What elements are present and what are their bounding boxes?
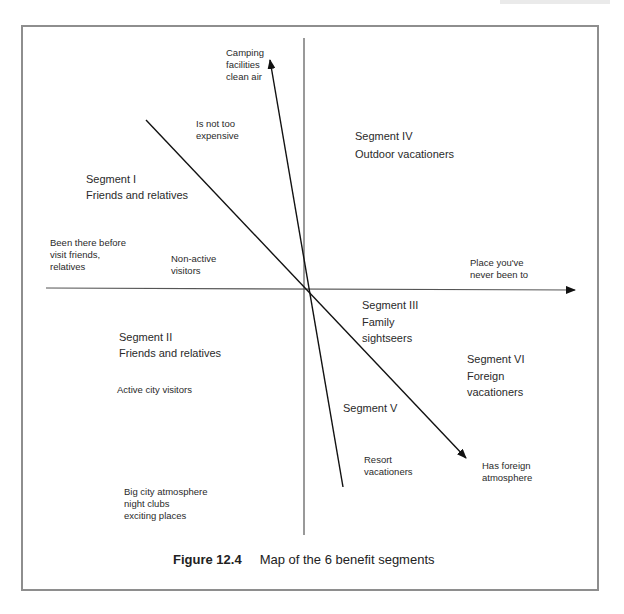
figure-title: Map of the 6 benefit segments (260, 552, 435, 567)
segment-v-title: Segment V (343, 400, 397, 416)
segment-iii-desc: Family sightseers (362, 314, 412, 346)
figure-number: Figure 12.4 (173, 552, 242, 567)
segment-i-desc: Friends and relatives (86, 187, 188, 203)
horizontal-axis (46, 288, 575, 290)
label-big-city: Big city atmosphere night clubs exciting… (124, 486, 207, 522)
segment-i-title: Segment I (86, 171, 136, 187)
label-foreign-atmosphere: Has foreign atmosphere (482, 460, 532, 484)
segment-vi-desc: Foreign vacationers (467, 368, 523, 400)
label-camping: Camping facilities clean air (226, 47, 264, 83)
camping-vector (270, 60, 343, 487)
label-non-active: Non-active visitors (171, 253, 216, 277)
label-never-been: Place you've never been to (470, 257, 528, 281)
label-active-city: Active city visitors (117, 384, 192, 396)
label-resort: Resort vacationers (364, 454, 413, 478)
segment-iv-title: Segment IV (355, 128, 412, 144)
figure-caption: Figure 12.4Map of the 6 benefit segments (173, 552, 435, 567)
segment-vi-title: Segment VI (467, 351, 524, 367)
label-not-expensive: Is not too expensive (196, 118, 239, 142)
segment-iv-desc: Outdoor vacationers (355, 146, 454, 162)
segment-ii-title: Segment II (119, 329, 172, 345)
label-been-there: Been there before visit friends, relativ… (50, 237, 126, 273)
segment-iii-title: Segment III (362, 297, 418, 313)
segment-ii-desc: Friends and relatives (119, 345, 221, 361)
perceptual-map (0, 0, 624, 614)
